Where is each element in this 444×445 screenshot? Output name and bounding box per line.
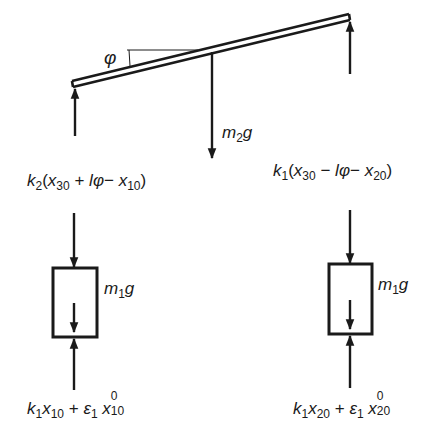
subscript: 30 (56, 179, 69, 193)
epsilon-symbol: ε (349, 399, 356, 418)
right-mass-weight-label: m1g (378, 276, 408, 293)
minus: − (104, 171, 119, 190)
angle-label: φ (104, 48, 116, 67)
minus: − (316, 161, 335, 180)
plus: + (64, 399, 83, 418)
subscript: 1 (357, 407, 364, 421)
beam-weight-label: m2g (222, 124, 252, 141)
m-symbol: m (104, 279, 118, 298)
x-symbol: x (102, 399, 111, 418)
x-symbol: x (368, 399, 377, 418)
subscript: 10 (127, 179, 140, 193)
x-symbol: x (119, 171, 128, 190)
plus: + (70, 171, 89, 190)
left-mass-weight-label: m1g (104, 280, 134, 297)
g-symbol: g (399, 275, 408, 294)
plus: + (330, 399, 349, 418)
left-spring-force-label: k2(x30 + lφ− x10) (27, 172, 146, 189)
subscript: 20 (373, 169, 386, 183)
m-symbol: m (222, 123, 236, 142)
k-symbol: k (293, 399, 302, 418)
paren: ) (386, 161, 392, 180)
k-symbol: k (27, 171, 36, 190)
subscript: 10 (51, 407, 64, 421)
phi-symbol: φ (93, 171, 104, 190)
k-symbol: k (273, 161, 282, 180)
left-bottom-force-label: k1x10 + ε1 x010 (27, 400, 127, 417)
phi-symbol: φ (104, 47, 116, 68)
superscript: 0 (377, 390, 384, 402)
sup-sub-index: 010 (111, 404, 127, 414)
epsilon-symbol: ε (83, 399, 90, 418)
paren: ) (140, 171, 146, 190)
k-symbol: k (27, 399, 36, 418)
sup-sub-index: 020 (377, 404, 393, 414)
subscript: 2 (236, 131, 243, 145)
minus: − (350, 161, 365, 180)
phi-symbol: φ (339, 161, 350, 180)
subscript: 1 (118, 287, 125, 301)
g-symbol: g (243, 123, 252, 142)
subscript: 20 (317, 407, 330, 421)
m-symbol: m (378, 275, 392, 294)
x-symbol: x (308, 399, 317, 418)
right-bottom-force-label: k1x20 + ε1 x020 (293, 400, 393, 417)
superscript: 0 (111, 390, 118, 402)
g-symbol: g (125, 279, 134, 298)
subscript: 1 (392, 283, 399, 297)
x-symbol: x (42, 399, 51, 418)
subscript: 20 (377, 405, 390, 417)
subscript: 30 (302, 169, 315, 183)
x-symbol: x (365, 161, 374, 180)
free-body-diagram (0, 0, 444, 445)
subscript: 10 (111, 405, 124, 417)
right-spring-force-label: k1(x30 − lφ− x20) (273, 162, 392, 179)
subscript: 1 (91, 407, 98, 421)
